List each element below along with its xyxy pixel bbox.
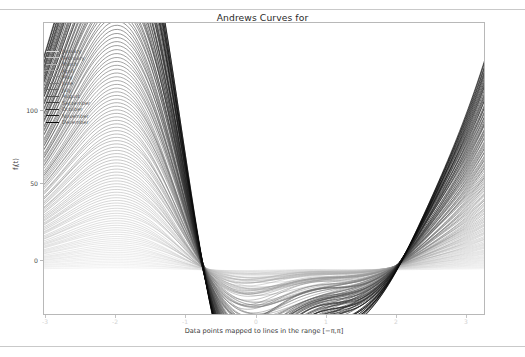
x-axis-label: Data points mapped to lines in the range… bbox=[43, 327, 485, 335]
x-tick-mark bbox=[326, 315, 327, 318]
y-axis-label-subscript: i bbox=[14, 166, 20, 167]
legend-item-label: May bbox=[62, 74, 73, 80]
x-tick-label: -1 bbox=[165, 318, 205, 325]
legend-swatch-icon bbox=[46, 96, 59, 97]
y-tick-label: 50 bbox=[0, 180, 38, 187]
legend-swatch-icon bbox=[46, 115, 59, 116]
y-tick-mark bbox=[40, 183, 43, 184]
andrews-curve bbox=[44, 127, 485, 313]
legend-swatch-icon bbox=[46, 109, 59, 110]
x-tick-mark bbox=[256, 315, 257, 318]
andrews-curve bbox=[44, 29, 485, 315]
legend[interactable]: JanuaryFebruaryMarchAprilMayJuneJulyAugu… bbox=[46, 48, 108, 125]
y-tick-mark bbox=[40, 110, 43, 111]
legend-item-label: April bbox=[62, 68, 74, 74]
y-tick-mark bbox=[40, 260, 43, 261]
x-tick-mark bbox=[185, 315, 186, 318]
legend-item-label: February bbox=[62, 55, 85, 61]
legend-item-label: October bbox=[62, 106, 82, 112]
legend-swatch-icon bbox=[46, 122, 59, 123]
x-tick-mark bbox=[466, 315, 467, 318]
x-tick-label: -3 bbox=[25, 318, 65, 325]
andrews-curve bbox=[44, 113, 485, 315]
andrews-curves-svg bbox=[44, 23, 485, 315]
window-top-rule bbox=[0, 9, 525, 10]
y-axis-label: fi(t) bbox=[12, 158, 20, 170]
legend-swatch-icon bbox=[46, 89, 59, 90]
x-tick-mark bbox=[396, 315, 397, 318]
x-tick-label: 3 bbox=[446, 318, 486, 325]
x-tick-label: 0 bbox=[236, 318, 276, 325]
legend-item-label: March bbox=[62, 61, 78, 67]
y-axis-label-tail: (t) bbox=[12, 158, 20, 166]
y-tick-label: 100 bbox=[0, 107, 38, 114]
x-tick-mark bbox=[115, 315, 116, 318]
figure-canvas: Andrews Curves for Mean Monthly Temperat… bbox=[0, 0, 525, 357]
plot-area bbox=[43, 22, 485, 315]
legend-swatch-icon bbox=[46, 102, 59, 103]
legend-swatch-icon bbox=[46, 64, 59, 65]
window-bottom-rule bbox=[0, 346, 525, 347]
legend-swatch-icon bbox=[46, 83, 59, 84]
x-tick-label: -2 bbox=[95, 318, 135, 325]
legend-swatch-icon bbox=[46, 76, 59, 77]
legend-item-label: January bbox=[62, 48, 81, 54]
legend-swatch-icon bbox=[46, 51, 59, 52]
legend-item-label: June bbox=[62, 80, 73, 86]
legend-item-label: September bbox=[62, 100, 90, 106]
legend-swatch-icon bbox=[46, 57, 59, 58]
legend-item-label: August bbox=[62, 93, 80, 99]
andrews-curve bbox=[44, 120, 485, 315]
x-tick-label: 2 bbox=[376, 318, 416, 325]
legend-item-label: December bbox=[62, 119, 88, 125]
x-tick-label: 1 bbox=[306, 318, 346, 325]
legend-item-label: July bbox=[62, 87, 71, 93]
legend-item-december[interactable]: December bbox=[46, 119, 108, 125]
legend-item-label: November bbox=[62, 113, 89, 119]
legend-swatch-icon bbox=[46, 70, 59, 71]
y-tick-label: 0 bbox=[0, 257, 38, 264]
x-tick-mark bbox=[45, 315, 46, 318]
andrews-curve bbox=[44, 58, 485, 315]
